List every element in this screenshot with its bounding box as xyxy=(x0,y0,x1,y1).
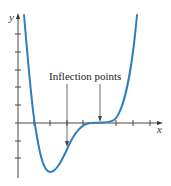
x-axis-label: x xyxy=(156,123,162,135)
y-axis-label: y xyxy=(8,11,14,23)
arrowhead-icon xyxy=(98,116,102,122)
function-curve xyxy=(24,15,137,172)
inflection-points-graph: Inflection points x y xyxy=(0,0,171,186)
y-axis-arrow-icon xyxy=(16,13,20,19)
inflection-points-label: Inflection points xyxy=(49,70,121,82)
